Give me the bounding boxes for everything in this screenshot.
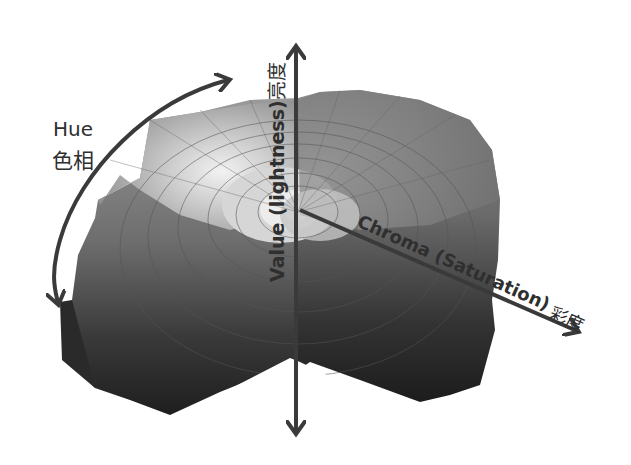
value-label: Value (lightness) [266, 100, 288, 282]
chroma-label-zh: 彩度 [546, 302, 587, 336]
hue-label-zh: 色相 [52, 149, 94, 173]
value-label-zh: 亮度 [266, 62, 288, 100]
munsell-diagram: Hue 色相 Value (lightness) 亮度 Chroma (Satu… [0, 0, 631, 465]
hue-label: Hue [53, 117, 93, 141]
